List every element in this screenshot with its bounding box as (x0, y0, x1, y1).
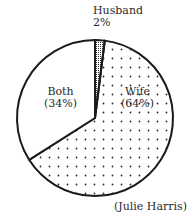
both-value: (34%) (44, 98, 77, 110)
husband-label: Husband 2% (93, 5, 143, 29)
pie-chart-svg (0, 0, 187, 224)
chart-credit: (Julie Harris) (114, 200, 187, 213)
husband-value: 2% (93, 17, 143, 29)
wife-label: Wife (64%) (121, 86, 154, 110)
pie-chart: Husband 2% Both (34%) Wife (64%) (Julie … (0, 0, 187, 224)
both-label: Both (34%) (44, 86, 77, 110)
wife-value: (64%) (121, 98, 154, 110)
pie-slices (17, 40, 173, 196)
